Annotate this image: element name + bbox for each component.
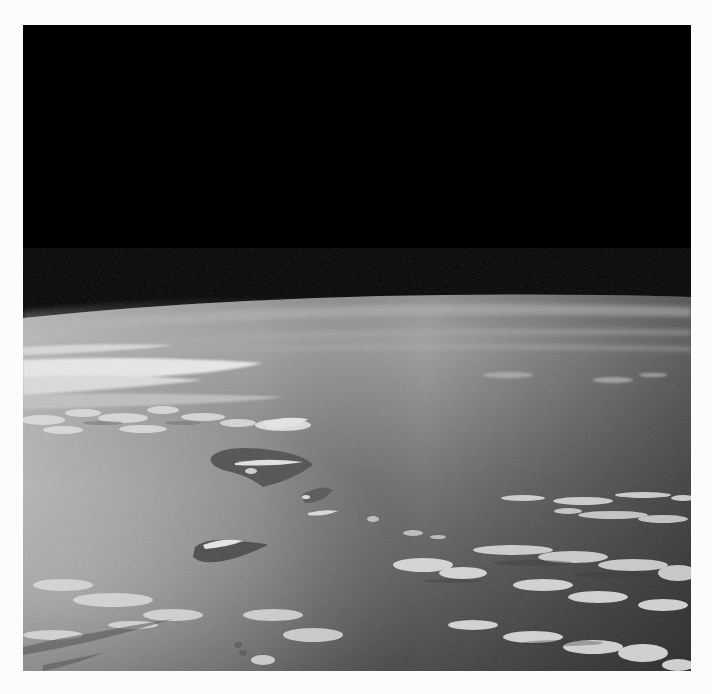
page (0, 0, 712, 694)
photo-canvas (23, 25, 691, 671)
film-grain (23, 287, 691, 671)
earth-orbit-photograph (23, 25, 691, 671)
